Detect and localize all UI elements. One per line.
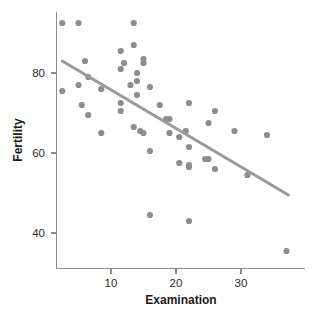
data-point xyxy=(131,20,137,26)
data-point xyxy=(186,164,192,170)
y-axis-title: Fertility xyxy=(11,118,25,162)
x-tick-label: 30 xyxy=(235,277,248,289)
data-point xyxy=(59,88,65,94)
data-point xyxy=(205,120,211,126)
x-axis-title: Examination xyxy=(145,293,216,307)
data-point xyxy=(131,124,137,130)
data-point xyxy=(121,60,127,66)
data-point xyxy=(176,160,182,166)
data-point xyxy=(79,102,85,108)
chart-canvas: 406080 102030 Examination Fertility xyxy=(0,0,321,319)
data-point xyxy=(140,130,146,136)
data-point xyxy=(118,66,124,72)
data-point xyxy=(147,212,153,218)
data-point xyxy=(264,132,270,138)
data-point xyxy=(140,60,146,66)
scatter-plot-figure: 406080 102030 Examination Fertility xyxy=(0,0,321,319)
data-point xyxy=(212,166,218,172)
data-point xyxy=(134,92,140,98)
data-point xyxy=(212,108,218,114)
x-tick-label: 20 xyxy=(170,277,183,289)
data-point xyxy=(186,218,192,224)
data-point xyxy=(186,144,192,150)
data-point xyxy=(118,100,124,106)
data-point xyxy=(134,70,140,76)
data-point xyxy=(75,82,81,88)
data-point xyxy=(166,130,172,136)
data-point xyxy=(134,78,140,84)
data-point xyxy=(118,48,124,54)
data-point xyxy=(157,102,163,108)
data-point xyxy=(166,116,172,122)
data-point xyxy=(186,100,192,106)
x-tick-label: 10 xyxy=(105,277,118,289)
data-point xyxy=(127,82,133,88)
data-point xyxy=(118,108,124,114)
data-point xyxy=(85,112,91,118)
data-point xyxy=(176,134,182,140)
y-tick-label: 80 xyxy=(32,67,45,79)
data-point xyxy=(98,130,104,136)
y-tick-label: 60 xyxy=(32,147,45,159)
data-point xyxy=(59,20,65,26)
data-point xyxy=(231,128,237,134)
data-point xyxy=(75,20,81,26)
data-point xyxy=(147,84,153,90)
data-point xyxy=(283,248,289,254)
plot-background xyxy=(0,0,321,319)
y-tick-label: 40 xyxy=(32,227,45,239)
data-point xyxy=(202,156,208,162)
data-point xyxy=(131,42,137,48)
data-point xyxy=(147,148,153,154)
data-point xyxy=(82,58,88,64)
